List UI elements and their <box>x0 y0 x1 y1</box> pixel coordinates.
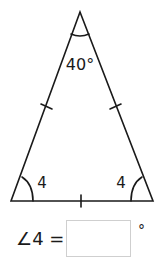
apex-angle-arc <box>71 34 89 36</box>
triangle-outline <box>11 12 153 201</box>
answer-row: ∠4 = ° <box>0 220 163 260</box>
triangle-diagram: 40° 4 4 <box>0 0 163 215</box>
degree-unit: ° <box>138 222 145 238</box>
apex-angle-label: 40° <box>66 55 94 74</box>
left-angle-arc <box>22 177 33 201</box>
angle-question-label: ∠4 = <box>16 228 64 250</box>
angle-answer-input[interactable] <box>66 220 131 257</box>
right-angle-label: 4 <box>116 174 126 192</box>
right-angle-arc <box>131 177 142 201</box>
left-angle-label: 4 <box>37 174 47 192</box>
